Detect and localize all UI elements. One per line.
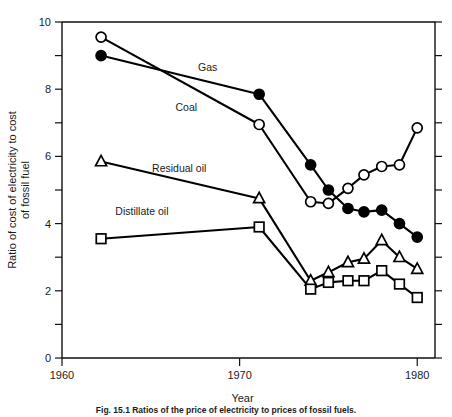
figure-caption: Fig. 15.1 Ratios of the price of electri… — [96, 405, 356, 415]
y-tick-label: 6 — [45, 150, 51, 162]
series-annotation: Distillate oil — [115, 205, 168, 217]
marker-open-square — [306, 284, 316, 294]
y-tick-label: 4 — [45, 218, 51, 230]
figure-container: 0246810196019701980 YearRatio of cost of… — [0, 0, 452, 417]
x-axis-title: Year — [231, 392, 254, 404]
marker-open-square — [96, 234, 106, 244]
marker-filled-circle — [306, 160, 316, 170]
y-axis-title-line: Ratio of cost of electricity to cost — [6, 111, 18, 269]
marker-filled-circle — [254, 89, 264, 99]
marker-open-square — [377, 266, 387, 276]
y-axis-title-line: of fossil fuel — [19, 161, 31, 219]
marker-open-square — [395, 279, 405, 289]
series-residual-oil — [96, 155, 423, 285]
y-tick-label: 8 — [45, 83, 51, 95]
marker-open-circle — [323, 198, 333, 208]
marker-open-triangle — [412, 263, 423, 273]
marker-open-triangle — [376, 234, 387, 244]
marker-filled-circle — [412, 232, 422, 242]
x-tick-label: 1970 — [227, 369, 251, 381]
marker-open-circle — [412, 123, 422, 133]
marker-open-circle — [306, 197, 316, 207]
series-distillate-oil — [96, 222, 422, 302]
marker-open-circle — [343, 183, 353, 193]
marker-filled-circle — [359, 207, 369, 217]
y-tick-label: 10 — [39, 16, 51, 28]
marker-open-circle — [96, 32, 106, 42]
marker-open-square — [412, 293, 422, 303]
series-annotation: Gas — [198, 61, 217, 73]
marker-open-square — [359, 276, 369, 286]
series-annotation: Residual oil — [152, 162, 206, 174]
marker-open-triangle — [96, 155, 107, 165]
chart-series — [96, 32, 423, 302]
marker-filled-circle — [343, 203, 353, 213]
series-annotation: Coal — [176, 101, 198, 113]
marker-open-circle — [377, 161, 387, 171]
chart-axes: 0246810196019701980 — [39, 16, 442, 381]
marker-open-square — [254, 222, 264, 232]
marker-filled-circle — [377, 205, 387, 215]
plot-frame — [62, 22, 435, 358]
chart-labels: YearRatio of cost of electricity to cost… — [6, 61, 356, 415]
marker-open-square — [324, 278, 334, 288]
y-tick-label: 2 — [45, 285, 51, 297]
line-chart: 0246810196019701980 YearRatio of cost of… — [0, 0, 452, 417]
marker-filled-circle — [96, 51, 106, 61]
marker-open-circle — [359, 170, 369, 180]
y-tick-label: 0 — [45, 352, 51, 364]
x-tick-label: 1960 — [50, 369, 74, 381]
marker-open-circle — [394, 160, 404, 170]
marker-open-circle — [254, 119, 264, 129]
marker-open-square — [343, 276, 353, 286]
series-coal — [96, 32, 422, 208]
marker-filled-circle — [394, 219, 404, 229]
x-tick-label: 1980 — [405, 369, 429, 381]
marker-filled-circle — [323, 185, 333, 195]
